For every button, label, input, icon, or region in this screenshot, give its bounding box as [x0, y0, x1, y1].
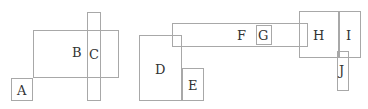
- box-label-i: I: [346, 29, 351, 42]
- box-label-c: C: [89, 48, 99, 61]
- box-label-a: A: [17, 84, 26, 97]
- box-label-e: E: [188, 79, 198, 92]
- box-label-f: F: [237, 29, 246, 42]
- box-label-g: G: [258, 29, 268, 42]
- box-label-d: D: [155, 63, 165, 76]
- box-label-b: B: [72, 46, 82, 59]
- box-label-h: H: [313, 29, 324, 42]
- box-label-j: J: [339, 64, 344, 77]
